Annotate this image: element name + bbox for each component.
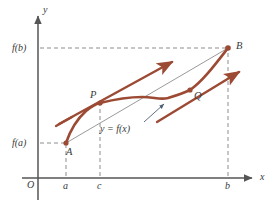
x-tick-label-b: b bbox=[225, 181, 230, 191]
x-tick-label-a: a bbox=[63, 181, 68, 191]
y-tick-label-fa: f(a) bbox=[12, 138, 26, 148]
point-label-P: P bbox=[90, 90, 96, 101]
point-marker-A bbox=[63, 140, 68, 145]
point-marker-Q bbox=[187, 87, 192, 92]
point-label-A: A bbox=[66, 147, 72, 158]
tangent-P-segment bbox=[59, 62, 172, 124]
point-label-Q: Q bbox=[194, 91, 202, 102]
axes-group bbox=[22, 16, 252, 200]
point-marker-P bbox=[97, 100, 102, 105]
point-label-B: B bbox=[236, 41, 242, 52]
origin-label: O bbox=[27, 180, 34, 190]
point-marker-B bbox=[225, 45, 231, 51]
x-tick-label-c: c bbox=[97, 181, 101, 191]
function-label: y = f(x) bbox=[100, 124, 130, 134]
y-tick-label-fb: f(b) bbox=[12, 43, 26, 53]
x-axis-label: x bbox=[260, 172, 264, 182]
tangent-P-left-arrow bbox=[56, 117, 72, 126]
y-axis-label: y bbox=[43, 5, 47, 15]
tangent-line-at-P bbox=[56, 62, 172, 126]
figure-canvas bbox=[0, 0, 279, 206]
mean-value-theorem-figure: y x O a c b f(b) f(a) A P Q B y = f(x) bbox=[0, 0, 279, 206]
